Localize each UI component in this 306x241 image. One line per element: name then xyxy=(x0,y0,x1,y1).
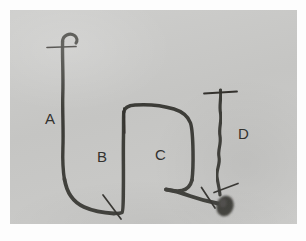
segment-a-shaft xyxy=(63,41,65,180)
tick-c-left-mark xyxy=(124,108,125,133)
tick-d-lower-left-mark xyxy=(202,188,216,209)
tick-d-top-mark xyxy=(204,92,237,94)
segment-a-tube xyxy=(63,34,77,43)
tick-b-bottom-mark xyxy=(103,195,121,219)
specimen-photograph-plate: A B C D xyxy=(10,10,297,224)
structure-label-d: D xyxy=(238,126,249,141)
structure-label-c: C xyxy=(155,147,166,162)
structure-label-a: A xyxy=(45,111,55,126)
figure-root: A B C D xyxy=(0,0,306,241)
tick-mark-group xyxy=(47,47,238,220)
segment-a-bend xyxy=(65,179,115,214)
terminal-bulb-highlight xyxy=(219,199,226,207)
segment-c-tube xyxy=(124,105,193,180)
segment-b-tube xyxy=(114,112,124,214)
tick-a-top-mark xyxy=(47,47,76,48)
structure-label-b: B xyxy=(97,149,107,164)
segment-d-tube xyxy=(217,90,221,195)
